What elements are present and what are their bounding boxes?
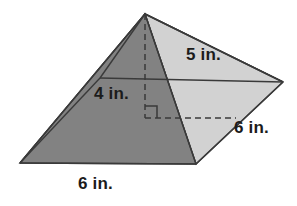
- base-label: 6 in.: [78, 174, 113, 194]
- slant-height-label: 5 in.: [186, 45, 221, 65]
- depth-label: 6 in.: [234, 118, 269, 138]
- height-label: 4 in.: [94, 84, 129, 104]
- base-edge-front-left: [20, 163, 196, 164]
- pyramid-figure: [0, 0, 297, 206]
